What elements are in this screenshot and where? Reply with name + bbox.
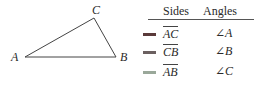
- side-marker-ab: [143, 71, 156, 74]
- vertex-a-label: A: [11, 51, 18, 63]
- angle-b: ∠B: [215, 45, 232, 57]
- side-ac: AC: [163, 26, 178, 40]
- triangle-abc: [0, 0, 130, 87]
- vertex-c-label: C: [92, 4, 100, 16]
- vertex-b-label: B: [120, 51, 127, 63]
- side-ab: AB: [163, 64, 178, 78]
- angle-a: ∠A: [215, 27, 232, 39]
- angle-c: ∠C: [215, 65, 233, 77]
- header-divider: [148, 19, 254, 20]
- side-marker-ac: [143, 33, 156, 36]
- sides-header: Sides: [163, 5, 189, 17]
- angles-header: Angles: [203, 5, 237, 17]
- side-cb: CB: [163, 44, 178, 58]
- side-marker-cb: [143, 51, 156, 54]
